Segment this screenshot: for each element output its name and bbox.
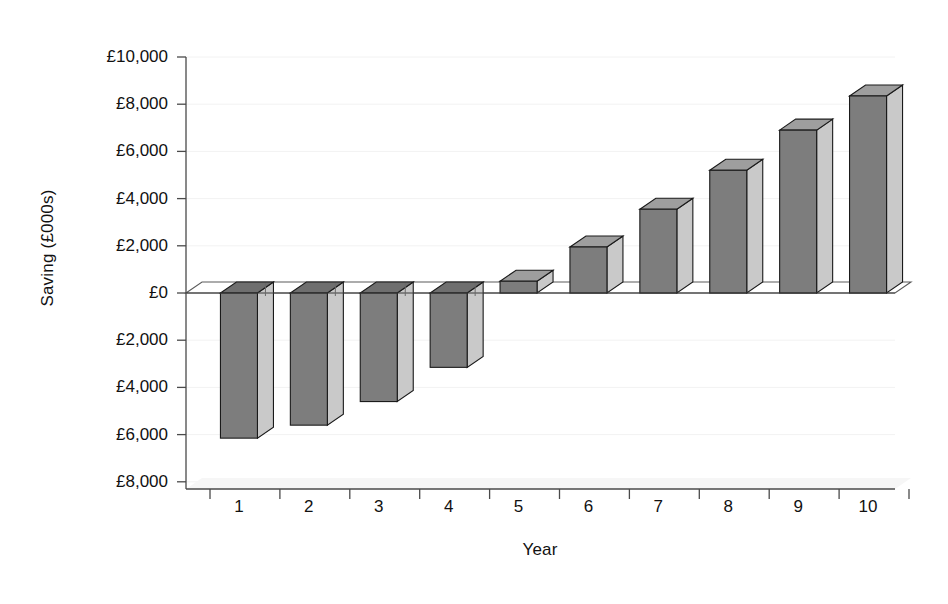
bar-column [780, 119, 833, 293]
chart-container: Saving (£000s) £10,000£8,000£6,000£4,000… [0, 0, 948, 604]
bar-column [570, 236, 623, 293]
floor-plane [186, 478, 911, 489]
bar-column [640, 198, 693, 293]
bar-column [360, 282, 413, 402]
bar-column [710, 159, 763, 293]
plot-area [0, 0, 948, 604]
bar-column [850, 85, 903, 293]
bar-column [220, 282, 273, 438]
bar-column [290, 282, 343, 425]
